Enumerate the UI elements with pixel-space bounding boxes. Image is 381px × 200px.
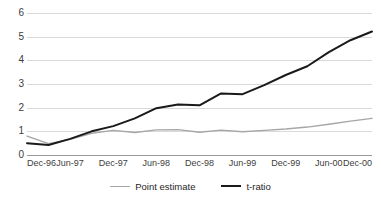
y-tick-label: 3 [2,79,24,89]
x-tick-label: Dec-99 [271,158,300,169]
y-tick-label: 4 [2,55,24,65]
y-tick-label: 1 [2,126,24,136]
x-tick-label: Jun-97 [56,158,84,169]
series-line [27,31,372,145]
legend-label: t-ratio [246,181,270,192]
y-axis-labels: 0123456 [0,0,24,200]
legend-line-icon [110,186,130,187]
legend-label: Point estimate [135,181,195,192]
y-tick-label: 2 [2,103,24,113]
x-tick-label: Dec-96 [27,158,56,169]
y-tick-label: 0 [2,150,24,160]
chart-legend: Point estimatet-ratio [0,178,381,194]
x-tick-label: Dec-97 [99,158,128,169]
series-line [27,118,372,143]
x-tick-label: Jun-99 [229,158,257,169]
legend-item[interactable]: t-ratio [221,181,270,192]
x-tick-label: Jun-98 [143,158,171,169]
legend-line-icon [221,185,241,187]
x-tick-label: Dec-00 [343,158,372,169]
series-layer [27,13,372,155]
y-tick-label: 6 [2,8,24,18]
line-chart: 0123456 Dec-96Jun-97Dec-97Jun-98Dec-98Ju… [0,0,381,200]
y-tick-label: 5 [2,32,24,42]
legend-item[interactable]: Point estimate [110,181,195,192]
plot-area [27,13,372,155]
x-tick-label: Jun-00 [315,158,343,169]
gridline-0 [27,155,372,156]
x-axis-labels: Dec-96Jun-97Dec-97Jun-98Dec-98Jun-99Dec-… [27,158,372,172]
x-tick-label: Dec-98 [185,158,214,169]
